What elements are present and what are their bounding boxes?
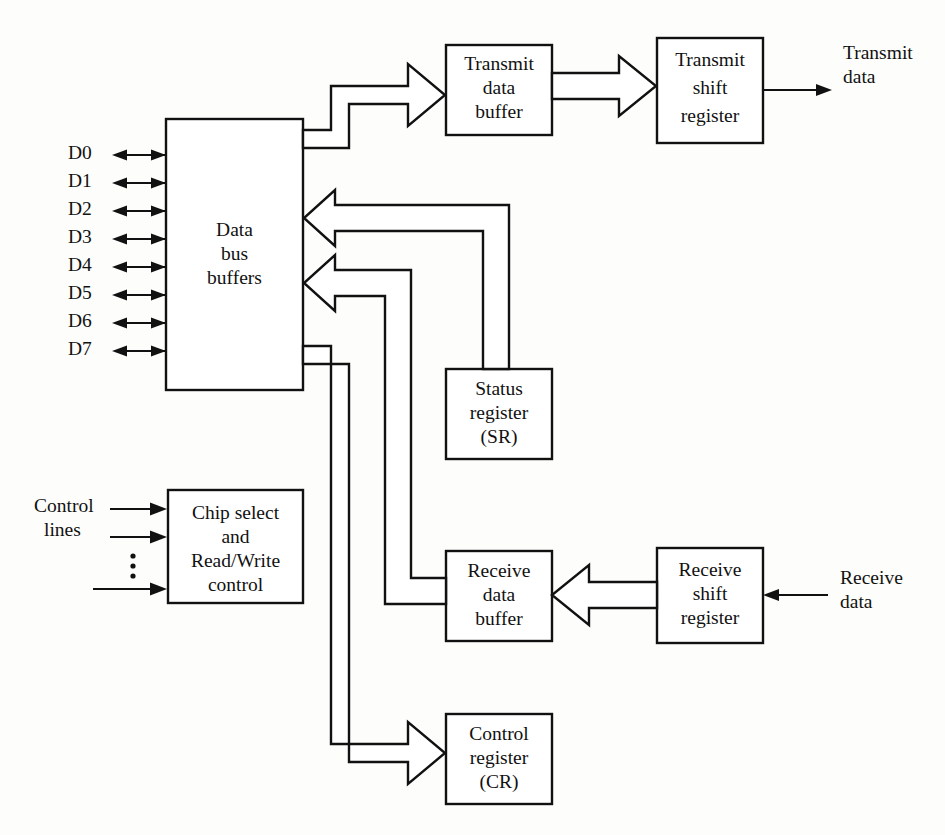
data-bus-label-d4: D4 [68,254,92,275]
receive-shift-register-label-line-1: Receive [679,559,742,580]
data-bus-buffers-label-line-1: Data [216,219,253,240]
data-bus-line-d1: D1 [68,170,166,191]
data-bus-buffers-label-line-3: buffers [207,267,262,288]
transmit-data-label-line-2: data [843,66,876,87]
block-receive-shift-register[interactable]: Receive shift register [657,548,763,643]
arrow-databus-to-control-register [303,346,445,784]
receive-data-buffer-label-line-2: data [483,584,516,605]
data-bus-line-d3: D3 [68,226,166,247]
data-bus-label-d2: D2 [68,198,92,219]
data-bus-line-d4: D4 [68,254,166,275]
data-bus-line-d0: D0 [68,142,166,163]
status-register-label-line-2: register [470,402,529,423]
transmit-data-buffer-label-line-2: data [483,77,516,98]
data-bus-buffers-label-line-2: bus [221,243,248,264]
data-bus-label-d7: D7 [68,338,92,359]
status-register-label-line-3: (SR) [481,426,518,448]
transmit-data-label-line-1: Transmit [843,42,913,63]
arrow-transmit-shift-register-to-transmit-data: Transmit data [763,42,913,96]
arrow-receive-data-to-shift-register: Receive data [763,567,903,612]
uart-block-diagram: Data bus buffers Transmit data buffer Tr… [0,0,945,835]
data-bus-line-d2: D2 [68,198,166,219]
control-lines-group: Control lines [34,495,167,595]
receive-data-buffer-label-line-1: Receive [468,560,531,581]
control-line-1 [110,503,167,516]
receive-data-label-line-2: data [840,591,873,612]
data-bus-label-d6: D6 [68,310,92,331]
control-lines-label-line-1: Control [34,495,94,516]
block-transmit-shift-register[interactable]: Transmit shift register [657,38,763,143]
arrow-receive-data-buffer-to-databus [304,255,446,604]
receive-data-buffer-label-line-3: buffer [475,608,523,629]
control-register-label-line-2: register [470,747,529,768]
block-diagram-canvas: Data bus buffers Transmit data buffer Tr… [0,0,945,835]
block-chip-select-read-write-control[interactable]: Chip select and Read/Write control [168,490,303,603]
transmit-data-buffer-label-line-1: Transmit [464,53,534,74]
receive-shift-register-label-line-3: register [681,607,740,628]
control-register-label-line-3: (CR) [480,771,519,793]
data-bus-label-d0: D0 [68,142,92,163]
control-register-label-line-1: Control [469,723,529,744]
data-bus-label-d5: D5 [68,282,92,303]
data-bus-line-d7: D7 [68,338,166,359]
data-bus-line-d5: D5 [68,282,166,303]
chip-select-label-line-3: Read/Write [191,550,280,571]
block-data-bus-buffers[interactable]: Data bus buffers [166,119,303,390]
data-bus-label-d1: D1 [68,170,92,191]
data-bus-lines: D0 D1 D2 D3 [68,142,166,359]
arrow-transmit-data-buffer-to-shift-register [552,56,656,116]
block-receive-data-buffer[interactable]: Receive data buffer [446,551,552,641]
data-bus-line-d6: D6 [68,310,166,331]
status-register-label-line-1: Status [475,378,523,399]
block-status-register[interactable]: Status register (SR) [446,369,552,459]
block-transmit-data-buffer[interactable]: Transmit data buffer [446,45,552,135]
transmit-data-buffer-label-line-3: buffer [475,101,523,122]
chip-select-label-line-2: and [221,526,249,547]
control-line-n [93,583,167,596]
receive-shift-register-label-line-2: shift [693,583,728,604]
control-lines-label-line-2: lines [44,519,81,540]
transmit-shift-register-label-line-3: register [681,105,740,126]
receive-data-label-line-1: Receive [840,567,903,588]
block-control-register[interactable]: Control register (CR) [446,714,552,804]
arrow-databus-to-transmit-data-buffer [303,64,445,148]
data-bus-label-d3: D3 [68,226,92,247]
chip-select-label-line-4: control [208,574,264,595]
control-lines-ellipsis-icon [130,553,135,578]
chip-select-label-line-1: Chip select [192,502,280,523]
transmit-shift-register-label-line-1: Transmit [675,49,745,70]
control-line-2 [110,531,167,544]
arrow-receive-shift-register-to-data-buffer [552,565,657,625]
transmit-shift-register-label-line-2: shift [693,77,728,98]
